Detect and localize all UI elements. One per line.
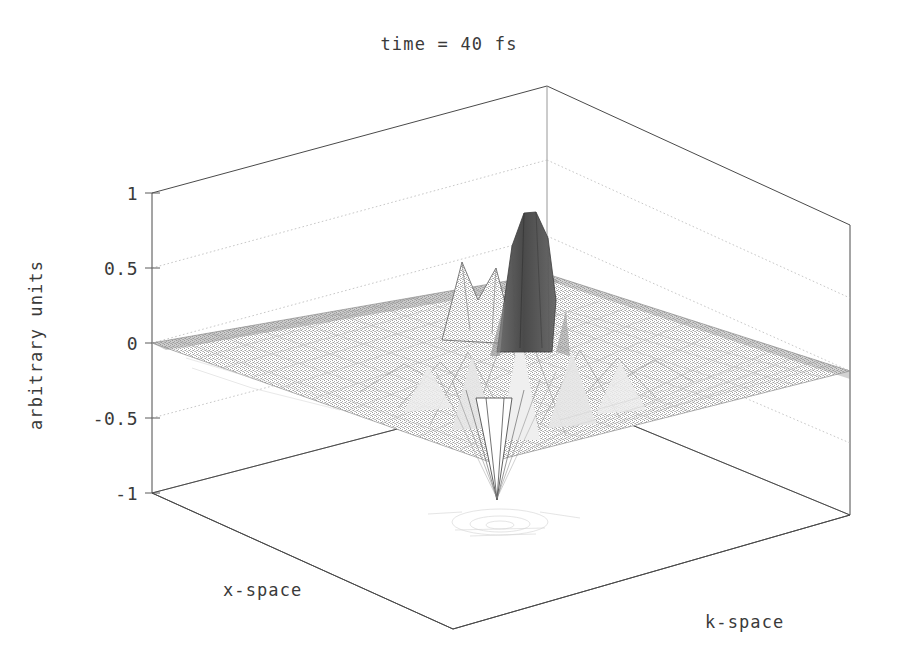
z-tick-1: 1: [127, 183, 138, 204]
z-tick-0.5: 0.5: [104, 258, 138, 279]
axis-box-front-edges: [152, 493, 850, 629]
plot-title: time = 40 fs: [380, 34, 517, 54]
z-tick-0: 0: [127, 333, 138, 354]
z-tick-neg1: -1: [115, 483, 138, 504]
z-axis-label: arbitrary units: [26, 260, 46, 430]
x-axis-label: x-space: [223, 580, 302, 600]
z-tick-neg0.5: -0.5: [93, 408, 138, 429]
y-axis-label: k-space: [705, 612, 784, 632]
surface-mesh: [152, 212, 856, 536]
plot-canvas: time = 40 fs 1 0.5 0 -0.5 -1 arbitrary u…: [0, 0, 898, 656]
floor-shadow: [428, 509, 580, 536]
surface-plot-figure: time = 40 fs 1 0.5 0 -0.5 -1 arbitrary u…: [0, 0, 898, 656]
